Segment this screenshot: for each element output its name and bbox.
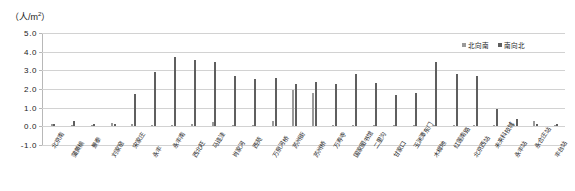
bar [53, 124, 55, 126]
bar [234, 76, 236, 126]
y-tick-label: 4.0 [24, 47, 37, 56]
bars-layer [43, 33, 565, 145]
plot-area: 5.04.03.02.01.00.0-1.0 [42, 33, 565, 145]
bar [174, 57, 176, 126]
bar [214, 62, 216, 126]
y-tick-label: -1.0 [21, 141, 37, 150]
bar [375, 83, 377, 126]
y-tick-mark [39, 70, 42, 71]
chart-root: （人/m2） 北向南 南向北 5.04.03.02.01.00.0-1.0 北京… [0, 0, 575, 191]
bar [73, 121, 75, 127]
x-axis-labels: 北京南蒲黄榆景泰刘家窑宋家庄永丰永丰南西北旺马连洼肖家河西苑万泉河桥苏州街苏州桥… [42, 146, 565, 191]
y-tick-mark [39, 126, 42, 127]
y-axis-unit-prefix: （人/m [10, 12, 38, 22]
bar [315, 82, 317, 126]
bar [134, 94, 136, 127]
y-tick-label: 2.0 [24, 85, 37, 94]
y-tick-mark [39, 89, 42, 90]
bar [295, 84, 297, 126]
y-tick-label: 3.0 [24, 66, 37, 75]
bar [275, 78, 277, 127]
bar [154, 72, 156, 126]
y-tick-label: 1.0 [24, 103, 37, 112]
bar [536, 124, 538, 126]
bar [254, 79, 256, 127]
y-tick-mark [39, 52, 42, 53]
y-tick-mark [39, 108, 42, 109]
bar [415, 93, 417, 127]
bar [556, 124, 558, 126]
bar [476, 76, 478, 126]
bar [516, 119, 518, 126]
y-tick-label: 0.0 [24, 122, 37, 131]
y-axis-unit-suffix: ） [41, 12, 50, 22]
bar [435, 62, 437, 126]
x-tick-label: 永丰 [151, 145, 163, 159]
bar [496, 109, 498, 127]
y-tick-label: 5.0 [24, 29, 37, 38]
bar [355, 74, 357, 126]
bar [335, 84, 337, 126]
y-axis-unit-label: （人/m2） [10, 10, 50, 23]
bar [456, 74, 458, 126]
bar [114, 124, 116, 126]
bar [194, 60, 196, 126]
y-tick-mark [39, 33, 42, 34]
bar [395, 95, 397, 127]
bar [93, 124, 95, 126]
